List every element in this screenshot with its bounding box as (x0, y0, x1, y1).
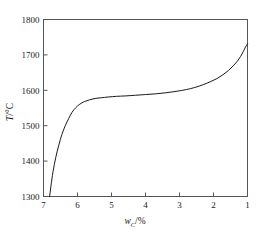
chart-screenshot: 130014001500160017001800 7654321 T/°C wC… (0, 0, 260, 234)
y-tick-label-1400: 1400 (22, 156, 41, 166)
y-tick-label-1500: 1500 (22, 121, 41, 131)
y-tick-label-1600: 1600 (22, 86, 41, 96)
x-tick-label-5: 5 (109, 200, 114, 210)
x-axis-title-text: wC/% (124, 216, 145, 228)
y-axis-title-text: T/°C (5, 103, 15, 121)
x-tick-label-4: 4 (143, 200, 148, 210)
y-tick-label-1700: 1700 (22, 50, 41, 60)
x-tick-label-3: 3 (177, 200, 182, 210)
x-tick-label-7: 7 (41, 200, 46, 210)
x-axis-title-unit: /% (135, 216, 146, 226)
x-tick-label-6: 6 (75, 200, 80, 210)
x-tick-label-2: 2 (211, 200, 216, 210)
y-tick-label-1300: 1300 (22, 192, 41, 202)
x-axis-title: wC/% (124, 216, 145, 228)
liquidus-chart: 130014001500160017001800 7654321 T/°C wC… (0, 0, 260, 234)
y-axis-title-unit: /°C (5, 103, 15, 116)
y-tick-label-1800: 1800 (22, 15, 41, 25)
x-tick-label-1: 1 (245, 200, 250, 210)
y-axis-title: T/°C (5, 103, 15, 121)
